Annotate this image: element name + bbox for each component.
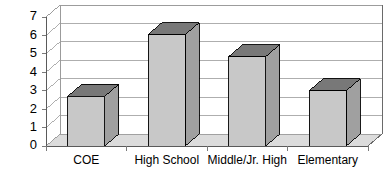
x-tick-label-0: COE: [73, 153, 99, 167]
x-tick-label-2: Middle/Jr. High: [208, 153, 287, 167]
bar-1: [148, 23, 199, 146]
x-axis-labels-layer: COEHigh SchoolMiddle/Jr. HighElementary: [73, 153, 358, 167]
x-tick-label-1: High School: [134, 153, 199, 167]
y-axis-labels-layer: 01234567: [30, 8, 37, 152]
y-tick-label-4: 4: [30, 64, 37, 79]
bar-3: [309, 79, 360, 146]
y-tick-label-2: 2: [30, 101, 37, 116]
left-side-wall: [46, 5, 60, 146]
bar-2: [229, 45, 280, 146]
y-tick-label-1: 1: [30, 119, 37, 134]
bar-side-face-1: [185, 23, 199, 146]
bar-front-face-2: [229, 57, 266, 146]
y-tick-label-5: 5: [30, 45, 37, 60]
y-tick-label-0: 0: [30, 137, 37, 152]
y-tick-label-7: 7: [30, 8, 37, 23]
x-tick-label-3: Elementary: [297, 153, 358, 167]
bar-side-face-2: [266, 45, 280, 146]
chart-canvas: 01234567 COEHigh SchoolMiddle/Jr. HighEl…: [0, 0, 387, 171]
bar-0: [68, 84, 119, 146]
bar-front-face-1: [148, 35, 185, 146]
bar-front-face-0: [68, 96, 105, 146]
bar-front-face-3: [309, 91, 346, 146]
y-tick-label-3: 3: [30, 82, 37, 97]
bar-chart: 01234567 COEHigh SchoolMiddle/Jr. HighEl…: [0, 0, 387, 171]
y-tick-label-6: 6: [30, 27, 37, 42]
